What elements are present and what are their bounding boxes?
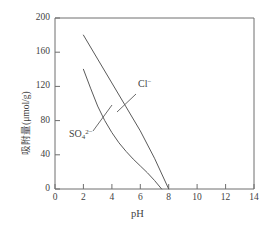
x-tick-marks [55, 184, 254, 189]
series-label-so4: SO42− [69, 128, 93, 141]
x-tick-label-0: 0 [45, 193, 65, 203]
series-label-so4-charge: 2− [85, 128, 92, 136]
x-tick-label-8: 8 [159, 193, 179, 203]
y-tick-marks [55, 18, 60, 189]
x-tick-label-2: 2 [73, 193, 93, 203]
series-line-cl [83, 35, 168, 189]
series-label-cl: Cl− [138, 78, 151, 89]
y-tick-label-160: 160 [24, 47, 50, 57]
plot-frame [55, 18, 254, 189]
x-tick-label-4: 4 [102, 193, 122, 203]
chart-figure: 200 160 120 80 40 0 0 2 4 6 8 10 12 14 p… [0, 0, 275, 233]
y-tick-label-200: 200 [24, 13, 50, 23]
series-label-so4-text: SO [69, 128, 82, 139]
x-axis-title: pH [0, 208, 275, 219]
x-tick-label-10: 10 [187, 193, 207, 203]
y-axis-title: 吸附量(μmol/g) [18, 91, 32, 155]
x-tick-label-6: 6 [130, 193, 150, 203]
x-tick-label-14: 14 [244, 193, 264, 203]
series-label-cl-charge: − [147, 78, 151, 86]
x-tick-label-12: 12 [216, 193, 236, 203]
y-tick-label-120: 120 [24, 81, 50, 91]
